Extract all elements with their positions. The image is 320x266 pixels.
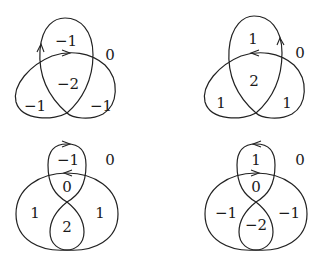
region-label-left: 1 [216,94,226,112]
region-label-middle: 0 [62,178,72,196]
panel-bottom-right: 1 0 0 −1 −1 −2 [205,141,307,250]
region-label-right: −1 [278,204,300,222]
region-label-top: −1 [57,151,79,169]
region-label-right: −1 [90,97,112,115]
region-label-top: 1 [248,30,258,48]
region-label-left: −1 [215,204,237,222]
region-label-left: −1 [24,97,46,115]
region-label-right: 1 [282,94,292,112]
region-label-center: 2 [249,72,259,90]
winding-number-diagram: −1 0 −2 −1 −1 1 0 2 1 1 −1 0 0 1 1 2 1 0… [0,0,320,266]
region-label-left: 1 [30,204,40,222]
region-label-top: −1 [55,32,77,50]
region-label-middle: 0 [251,178,261,196]
panel-top-right: 1 0 2 1 1 [204,16,304,118]
region-label-top: 1 [251,151,261,169]
region-label-outer: 0 [105,151,115,169]
region-label-bottom: −2 [245,216,267,234]
region-label-outer: 0 [295,44,305,62]
region-label-outer: 0 [105,46,115,64]
region-label-bottom: 2 [62,218,72,236]
panel-top-left: −1 0 −2 −1 −1 [15,18,115,118]
region-label-center: −2 [57,75,79,93]
region-label-right: 1 [95,204,105,222]
panel-bottom-left: −1 0 0 1 1 2 [16,141,118,250]
region-label-outer: 0 [295,151,305,169]
